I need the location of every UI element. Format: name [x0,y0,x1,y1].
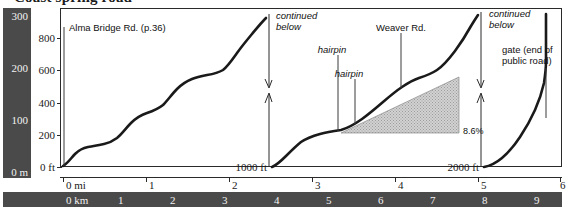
km-label-4: 4 [274,195,280,206]
panel-3-base-label-2000ft: 2000 ft [437,162,479,173]
km-label-1: 1 [118,195,124,206]
meters-tick-300: 300 [12,11,29,22]
annotation-grade-86-percent: 8.6% [463,126,484,136]
figure-title-cropped: Coast spring road [14,0,132,6]
meters-tick-200: 200 [12,63,29,74]
miles-label-4: 4 [398,180,404,191]
km-label-3: 3 [222,195,228,206]
annotation-hairpin-lower: hairpin [335,68,364,79]
annotation-continued-below-2-line1: continued [489,8,530,19]
feet-tick-label-800: 800 [27,33,55,44]
km-label-8: 8 [482,195,488,206]
km-label-6: 6 [378,195,384,206]
annotation-hairpin-upper: hairpin [318,44,347,55]
annotation-gate-line1: gate (end of [502,44,553,55]
km-label-9: 9 [534,195,540,206]
meters-tick-0: 0 m [11,167,28,178]
km-label-7: 7 [430,195,436,206]
feet-tick-label-400: 400 [27,98,55,109]
annotation-alma-bridge-rd: Alma Bridge Rd. (p.36) [69,22,166,33]
miles-label-1: 1 [149,180,155,191]
miles-tick-2 [229,178,230,182]
miles-label-6: 6 [560,180,566,191]
feet-tick-0 [57,167,62,168]
miles-tick-4 [395,178,396,182]
miles-label-2: 2 [232,180,238,191]
km-label-2: 2 [170,195,176,206]
miles-label-3: 3 [315,180,321,191]
annotation-continued-below-1-line2: below [276,21,301,32]
meters-tick-100: 100 [12,115,29,126]
miles-label-0: 0 mi [66,180,86,191]
annotation-weaver-rd: Weaver Rd. [376,22,426,33]
feet-tick-label-0: 0 ft [27,162,55,173]
miles-tick-0 [63,178,64,182]
elevation-profile-figure: Coast spring road 300 200 100 0 m 800 60… [0,0,570,213]
annotation-continued-below-2-line2: below [489,19,514,30]
annotation-continued-below-1-line1: continued [276,10,317,21]
miles-tick-3 [312,178,313,182]
miles-tick-1 [146,178,147,182]
panel-2-base-label-1000ft: 1000 ft [225,162,267,173]
km-label-5: 5 [326,195,332,206]
annotation-gate-line2: public road) [502,55,552,66]
miles-axis-line [60,177,562,178]
feet-tick-label-200: 200 [27,130,55,141]
feet-tick-label-600: 600 [27,65,55,76]
miles-tick-5 [478,178,479,182]
miles-label-5: 5 [481,180,487,191]
km-label-0: 0 km [66,195,88,206]
